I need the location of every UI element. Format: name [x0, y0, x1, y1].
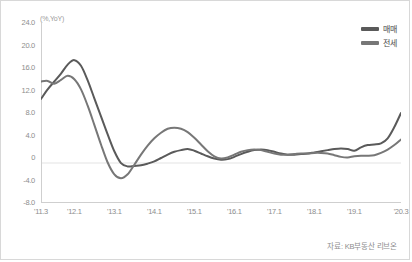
y-axis-tick-label: 16.0 — [9, 63, 35, 72]
y-axis-tick-label: -4.0 — [9, 176, 35, 185]
y-axis-unit-label: (%,YoY) — [40, 15, 64, 22]
x-axis-tick-label: '13.1 — [98, 207, 130, 216]
y-axis-tick-label: 8.0 — [9, 108, 35, 117]
chart-legend: 매매전세 — [361, 23, 397, 48]
x-axis-tick-label: '11.3 — [25, 207, 57, 216]
x-axis-tick-label: '17.1 — [258, 207, 290, 216]
x-axis-tick-label: '12.1 — [58, 207, 90, 216]
y-axis-tick-label: -8.0 — [9, 198, 35, 207]
x-axis-tick-label: '15.1 — [178, 207, 210, 216]
y-axis-tick-label: 12.0 — [9, 86, 35, 95]
y-axis-tick-label: 20.0 — [9, 41, 35, 50]
x-axis-tick-label: '20.3 — [385, 207, 412, 216]
x-axis-tick-label: '18.1 — [298, 207, 330, 216]
legend-label: 매매 — [383, 23, 397, 34]
chart-container: (%,YoY) 24.020.016.012.08.04.00-4.0-8.0 … — [0, 0, 410, 260]
legend-item[interactable]: 전세 — [361, 37, 397, 48]
x-axis-tick-label: '14.1 — [138, 207, 170, 216]
series-line-매매 — [41, 60, 401, 166]
x-axis-tick-label: '16.1 — [218, 207, 250, 216]
chart-plot-area — [41, 23, 401, 203]
source-note: 자료: KB부동산 리브온 — [327, 240, 397, 251]
y-axis-tick-label: 4.0 — [9, 131, 35, 140]
y-axis-tick-label: 24.0 — [9, 18, 35, 27]
legend-label: 전세 — [383, 37, 397, 48]
legend-swatch-icon — [361, 41, 379, 45]
legend-item[interactable]: 매매 — [361, 23, 397, 34]
legend-swatch-icon — [361, 27, 379, 31]
x-axis-tick-label: '19.1 — [338, 207, 370, 216]
y-axis-tick-label: 0 — [9, 153, 35, 162]
